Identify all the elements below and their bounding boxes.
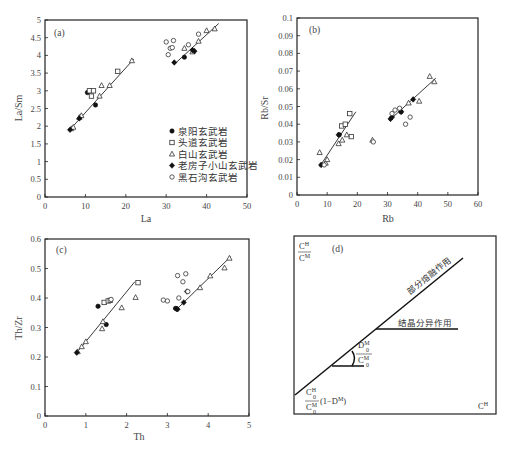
data-point-open-circle	[170, 45, 174, 49]
x-tick-label: 1	[84, 420, 88, 430]
x-tick-label: 40	[413, 199, 422, 209]
slope-den-sub: 0	[366, 362, 369, 368]
data-point-open-circle	[196, 32, 200, 36]
legend-symbol-open-triangle	[169, 151, 174, 156]
y-tick-label: 0.2	[30, 352, 41, 362]
x-tick-label: 50	[243, 201, 252, 211]
data-point-open-circle	[166, 52, 170, 56]
data-point-open-square	[343, 122, 347, 126]
legend-symbol-open-square	[170, 140, 174, 144]
legend-label-laofangzixiaoshan: 老房子小山玄武岩	[178, 160, 258, 171]
y-tick-label: 0.3	[30, 323, 41, 333]
data-point-open-triangle	[417, 98, 422, 103]
panel-c-points	[74, 255, 232, 355]
fit-line	[178, 257, 231, 309]
y-tick-label: 0.1	[282, 13, 293, 23]
figure: 0102030405000.511.522.533.544.55 (a) La …	[0, 0, 509, 449]
panel-b-x-label: Rb	[382, 213, 394, 224]
data-point-open-circle	[322, 163, 326, 167]
panel-d-y-den: CM	[299, 253, 311, 263]
x-tick-label: 10	[323, 199, 332, 209]
panel-a-y-label: La/Sm	[13, 94, 24, 121]
panel-a-la-vs-lasm: 0102030405000.511.522.533.544.55 (a) La …	[13, 15, 258, 224]
data-point-filled-circle	[93, 103, 97, 107]
x-tick-label: 2	[124, 420, 128, 430]
y-tick-label: 5	[37, 15, 41, 25]
data-point-open-circle	[175, 273, 179, 277]
panel-a-points	[67, 26, 217, 132]
data-point-open-circle	[184, 272, 188, 276]
panel-a-fit-lines	[69, 24, 218, 131]
y-tick-label: 0.5	[30, 264, 41, 274]
data-point-open-circle	[181, 280, 185, 284]
y-tick-label: 4.5	[30, 33, 41, 43]
panel-d-frame	[294, 236, 496, 414]
panel-b-axes: 010203040506000.010.020.030.040.050.060.…	[278, 13, 482, 209]
intercept-num-sub: 0	[313, 394, 316, 400]
data-point-open-circle	[393, 108, 397, 112]
x-tick-label: 10	[81, 201, 90, 211]
data-point-open-circle	[165, 299, 169, 303]
panel-b-rb-vs-rbsr: 010203040506000.010.020.030.040.050.060.…	[259, 13, 482, 224]
y-tick-label: 0.04	[278, 119, 294, 129]
data-point-open-triangle	[344, 132, 349, 137]
legend-symbol-open-circle	[170, 175, 174, 179]
data-point-open-triangle	[222, 265, 227, 270]
x-tick-label: 20	[122, 201, 131, 211]
panel-a-label: (a)	[54, 28, 65, 39]
data-point-open-circle	[403, 122, 407, 126]
data-point-open-square	[91, 89, 95, 93]
x-tick-label: 4	[206, 420, 211, 430]
panel-c-label: (c)	[56, 245, 67, 256]
data-point-open-square	[348, 111, 352, 115]
y-tick-label: 0.07	[278, 66, 293, 76]
y-tick-label: 0.4	[30, 293, 41, 303]
panel-c-y-label: Th/Zr	[13, 316, 24, 340]
y-tick-label: 0.5	[30, 174, 41, 184]
x-tick-label: 40	[202, 201, 211, 211]
y-tick-label: 3	[37, 86, 41, 96]
data-point-open-circle	[161, 298, 165, 302]
data-point-filled-circle	[96, 304, 100, 308]
y-tick-label: 0.06	[278, 84, 293, 94]
data-point-open-triangle	[100, 326, 105, 331]
y-tick-label: 0.02	[278, 155, 293, 165]
panel-c-x-label: Th	[133, 431, 144, 442]
data-point-open-triangle	[129, 58, 134, 63]
legend-label-baishan: 白山玄武岩	[178, 149, 228, 160]
panel-b-frame	[297, 18, 478, 195]
data-point-open-triangle	[100, 319, 105, 324]
data-point-open-triangle	[317, 150, 322, 155]
data-point-open-circle	[164, 40, 168, 44]
x-tick-label: 50	[444, 199, 453, 209]
y-tick-label: 0.05	[278, 102, 293, 112]
y-tick-label: 0	[289, 190, 293, 200]
panel-b-y-label: Rb/Sr	[259, 96, 270, 120]
data-point-open-circle	[371, 140, 375, 144]
data-point-open-circle	[171, 38, 175, 42]
panel-d-y-num: CH	[299, 241, 310, 251]
y-tick-label: 0.08	[278, 48, 293, 58]
fractional-crystallization-label: 结晶分异作用	[398, 318, 452, 328]
x-tick-label: 5	[247, 420, 251, 430]
y-tick-label: 0.09	[278, 31, 293, 41]
legend-symbol-filled-diamond	[169, 163, 174, 169]
data-point-open-triangle	[227, 255, 232, 260]
fit-line	[174, 24, 218, 65]
legend-label-heishigou: 黑石沟玄武岩	[178, 172, 238, 183]
x-tick-label: 0	[295, 199, 299, 209]
panel-c-frame	[45, 239, 249, 416]
data-point-open-circle	[186, 289, 190, 293]
panel-c-axes: 01234500.10.20.30.40.50.6	[30, 234, 251, 430]
data-point-open-circle	[177, 296, 181, 300]
legend-symbol-filled-circle	[170, 129, 174, 133]
data-point-open-triangle	[208, 273, 213, 278]
intercept-tail: (1−DM)	[320, 396, 346, 406]
data-point-open-triangle	[119, 305, 124, 310]
data-point-filled-circle	[182, 55, 186, 59]
panel-d-label: (d)	[332, 244, 343, 255]
panel-c-th-vs-thzr: 01234500.10.20.30.40.50.6 (c) Th Th/Zr	[13, 234, 251, 442]
data-point-open-triangle	[99, 83, 104, 88]
partial-melting-label: 部分熔融作用	[405, 255, 453, 297]
slope-angle-arc	[352, 351, 355, 366]
